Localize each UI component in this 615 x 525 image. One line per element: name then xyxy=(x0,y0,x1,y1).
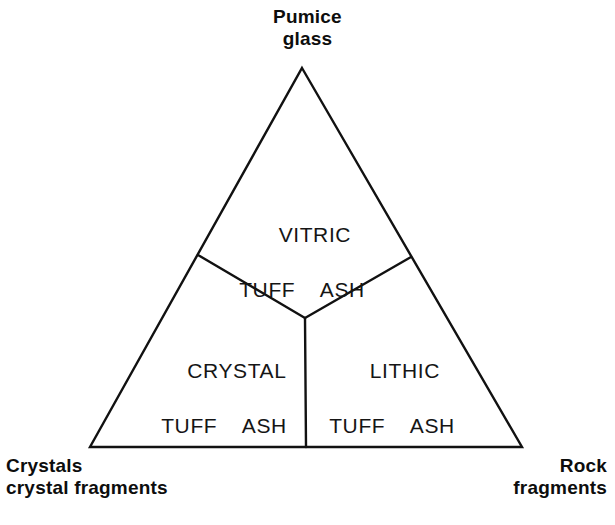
field-label-vitric-name: VITRIC xyxy=(279,223,351,246)
vertex-label-pumice-glass-line2: glass xyxy=(0,28,615,50)
ternary-diagram: Pumice glass Crystals crystal fragments … xyxy=(0,0,615,525)
vertex-label-rock-fragments-line1: Rock xyxy=(560,455,607,476)
vertex-label-rock-fragments-line2: fragments xyxy=(513,477,607,499)
vertex-label-crystals-line2: crystal fragments xyxy=(6,477,168,499)
field-label-vitric-tuff-ash: VITRIC TUFF ASH xyxy=(239,199,365,350)
vertex-label-crystals-line1: Crystals xyxy=(6,455,83,476)
field-label-crystal-name: CRYSTAL xyxy=(187,359,286,382)
vertex-label-crystals: Crystals crystal fragments xyxy=(6,455,168,500)
field-label-lithic-sub: TUFF ASH xyxy=(329,414,455,438)
field-label-crystal-tuff-ash: CRYSTAL TUFF ASH xyxy=(161,335,287,486)
vertex-label-pumice-glass: Pumice glass xyxy=(0,6,615,51)
vertex-label-pumice-glass-line1: Pumice xyxy=(273,6,342,27)
field-label-lithic-tuff-ash: LITHIC TUFF ASH xyxy=(329,335,455,486)
field-label-vitric-sub: TUFF ASH xyxy=(239,278,365,302)
field-label-crystal-sub: TUFF ASH xyxy=(161,414,287,438)
vertex-label-rock-fragments: Rock fragments xyxy=(513,455,607,500)
field-label-lithic-name: LITHIC xyxy=(370,359,440,382)
